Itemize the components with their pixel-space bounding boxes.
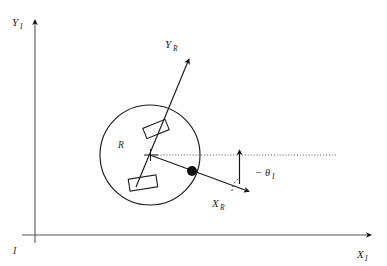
global-x-axis-label: X bbox=[356, 248, 365, 260]
angle-arc-dashed bbox=[232, 178, 240, 191]
robot-body-label: R bbox=[117, 140, 124, 150]
angle-symbol-label: θ bbox=[265, 167, 270, 178]
global-y-axis-label: Y bbox=[12, 16, 20, 28]
robot-x-axis-label: X bbox=[211, 197, 220, 209]
wheel-upper bbox=[143, 119, 169, 138]
robot-y-axis-subscript: R bbox=[172, 44, 178, 53]
global-origin-label: I bbox=[12, 245, 17, 256]
diagram-canvas: Y I X I I Y R X R R − θ I bbox=[0, 0, 387, 266]
wheel-lower bbox=[128, 175, 158, 191]
angle-sign-label: − bbox=[255, 167, 262, 178]
angle-subscript-label: I bbox=[271, 172, 275, 181]
robot-kinematics-figure: Y I X I I Y R X R R − θ I bbox=[0, 0, 387, 266]
global-y-axis-subscript: I bbox=[19, 22, 23, 31]
robot-x-axis-subscript: R bbox=[219, 203, 225, 212]
global-frame-group bbox=[22, 20, 371, 243]
global-x-axis-subscript: I bbox=[364, 254, 368, 263]
robot-body-group bbox=[100, 59, 249, 205]
angle-annotation-group bbox=[232, 150, 240, 191]
robot-y-axis bbox=[136, 59, 189, 187]
robot-y-axis-label: Y bbox=[165, 38, 173, 50]
center-of-mass-dot bbox=[187, 166, 197, 176]
